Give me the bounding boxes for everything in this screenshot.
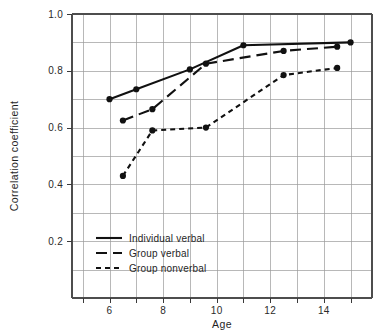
data-point <box>334 44 340 50</box>
y-tick-label: 1.0 <box>48 9 63 20</box>
chart-background <box>0 0 387 334</box>
x-tick-label: 14 <box>318 305 330 316</box>
data-point <box>149 127 155 133</box>
y-tick-label: 0.4 <box>48 179 63 190</box>
data-point <box>187 66 193 72</box>
x-tick-label: 6 <box>107 305 113 316</box>
y-tick-label: 0.6 <box>48 122 63 133</box>
x-tick-label: 10 <box>211 305 223 316</box>
x-axis-title: Age <box>212 318 232 330</box>
data-point <box>347 39 353 45</box>
data-point <box>120 117 126 123</box>
data-point <box>281 48 287 54</box>
data-point <box>334 65 340 71</box>
x-tick-label: 12 <box>264 305 276 316</box>
data-point <box>203 125 209 131</box>
legend-label: Group nonverbal <box>129 263 207 274</box>
legend-label: Group verbal <box>129 248 189 259</box>
legend-label: Individual verbal <box>129 233 205 244</box>
data-point <box>133 86 139 92</box>
data-point <box>120 173 126 179</box>
y-tick-label: 0.8 <box>48 65 63 76</box>
correlation-coefficient-line-chart: 68101214 0.20.40.60.81.0 Individual verb… <box>0 0 387 334</box>
y-axis-title: Correlation coefficient <box>8 101 20 212</box>
data-point <box>281 72 287 78</box>
y-tick-label: 0.2 <box>48 236 63 247</box>
data-point <box>106 96 112 102</box>
x-tick-label: 8 <box>160 305 166 316</box>
data-point <box>240 42 246 48</box>
data-point <box>149 106 155 112</box>
data-point <box>203 61 209 67</box>
